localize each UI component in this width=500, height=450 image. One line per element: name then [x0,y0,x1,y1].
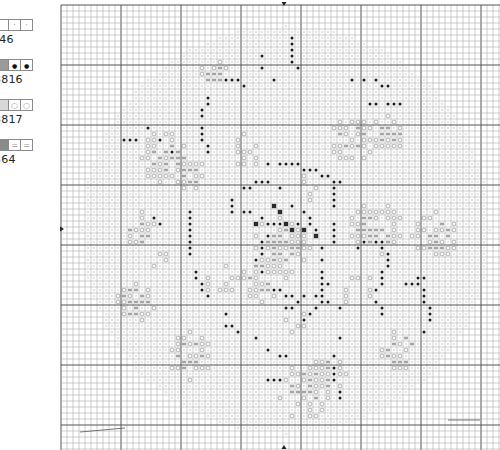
stitch-symbols [81,25,490,434]
grid-lines [61,5,500,450]
baseline-stroke [80,428,125,432]
center-marker-bottom [282,445,287,449]
cross-stitch-chart [0,0,500,450]
